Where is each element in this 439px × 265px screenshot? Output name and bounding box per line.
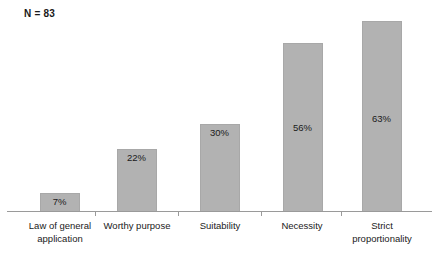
bar-group-necessity: 56%: [263, 0, 342, 212]
axis-tick-1: [95, 212, 96, 216]
axis-tick-2: [178, 212, 179, 216]
bar-value-strict-proportionality: 63%: [342, 113, 421, 124]
category-label-line: Strict: [327, 220, 437, 233]
bar-value-necessity: 56%: [263, 122, 342, 133]
bar-value-law-of-general-application: 7%: [20, 196, 99, 207]
bar-value-suitability: 30%: [180, 127, 259, 138]
bar-value-worthy-purpose: 22%: [97, 152, 176, 163]
bar-chart: N = 83 7% 22% 30% 56% 63% Law of general…: [0, 0, 439, 265]
axis-tick-4: [341, 212, 342, 216]
plot-area: 7% 22% 30% 56% 63%: [0, 0, 439, 212]
bar-group-strict-proportionality: 63%: [342, 0, 421, 212]
bar-group-law-of-general-application: 7%: [20, 0, 99, 212]
bar-group-worthy-purpose: 22%: [97, 0, 176, 212]
category-label-strict-proportionality: Strict proportionality: [327, 220, 437, 245]
bar-group-suitability: 30%: [180, 0, 259, 212]
category-label-line: application: [5, 233, 115, 246]
category-label-line: proportionality: [327, 233, 437, 246]
x-axis-line: [7, 211, 432, 212]
axis-tick-3: [261, 212, 262, 216]
